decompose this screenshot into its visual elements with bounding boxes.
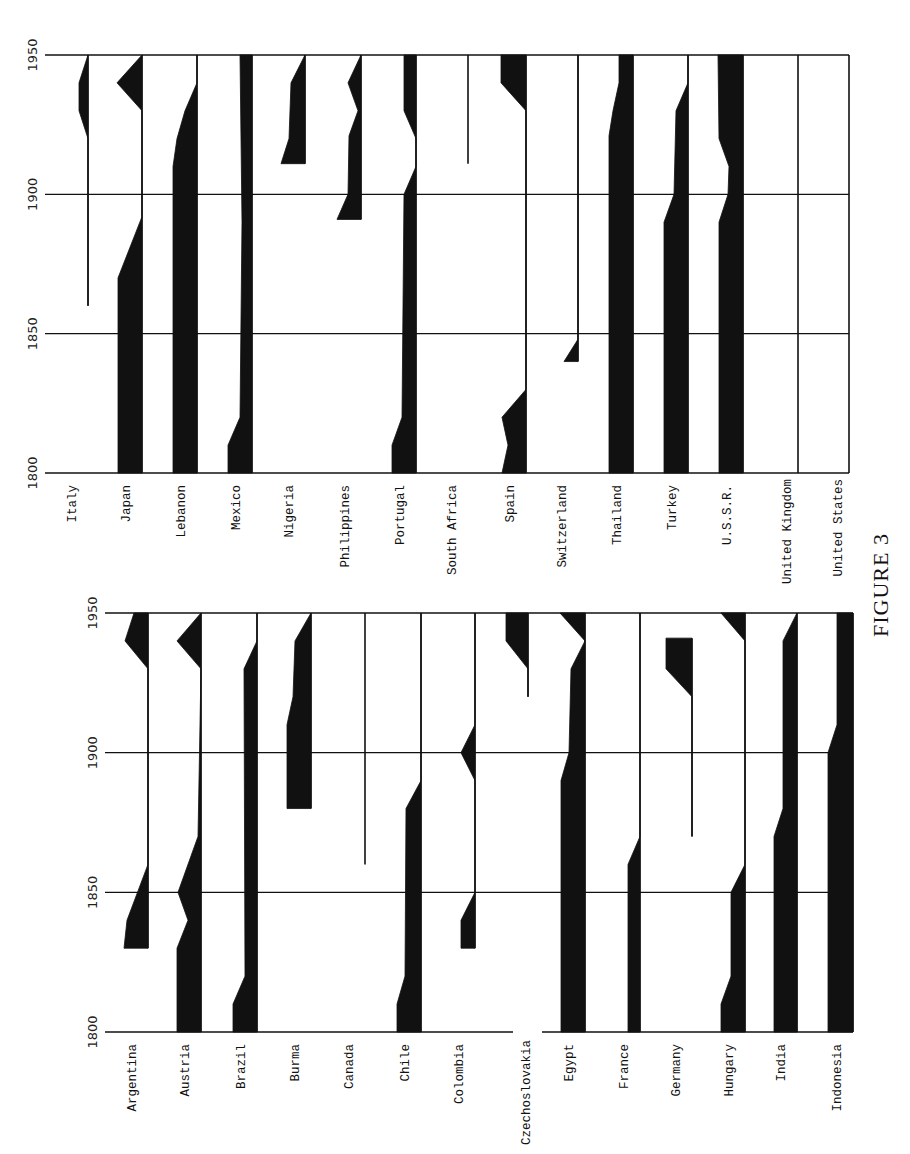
year-tick-label: 1800 — [25, 456, 40, 489]
series-burma: Burma — [287, 613, 311, 1082]
series-area — [392, 55, 416, 473]
country-label: Austria — [179, 1044, 193, 1097]
chart-panel-bottom: 1800185019001950ArgentinaAustriaBrazilBu… — [85, 596, 853, 1145]
series-area — [287, 613, 311, 809]
series-india: India — [774, 613, 797, 1082]
series-brazil: Brazil — [233, 613, 257, 1089]
country-label: Spain — [504, 485, 518, 523]
series-area — [564, 55, 578, 362]
series-south-africa: South Africa — [446, 55, 468, 575]
series-mexico: Mexico — [228, 55, 252, 530]
country-label: Hungary — [723, 1044, 737, 1097]
country-label: Philippines — [339, 485, 353, 568]
series-chile: Chile — [397, 613, 421, 1082]
country-label: Egypt — [563, 1044, 577, 1082]
country-label: Turkey — [666, 485, 680, 531]
series-portugal: Portugal — [392, 55, 416, 545]
country-label: Germany — [670, 1044, 684, 1097]
country-label: United States — [832, 479, 846, 577]
series-u-s-s-r-: U.S.S.R. — [718, 55, 743, 545]
series-germany: Germany — [666, 638, 692, 1096]
country-label: Switzerland — [556, 485, 570, 568]
year-tick-label: 1900 — [85, 736, 100, 769]
year-tick-label: 1900 — [25, 178, 40, 211]
year-tick-label: 1950 — [25, 38, 40, 71]
series-philippines: Philippines — [337, 55, 361, 568]
country-label: Japan — [120, 485, 134, 523]
country-label: Indonesia — [831, 1044, 845, 1112]
series-turkey: Turkey — [664, 55, 688, 530]
series-area — [228, 55, 252, 473]
country-label: Nigeria — [283, 485, 297, 538]
country-label: Mexico — [230, 485, 244, 530]
series-lebanon: Lebanon — [173, 55, 197, 538]
series-area — [79, 55, 88, 306]
series-austria: Austria — [177, 613, 201, 1097]
series-area — [461, 613, 475, 948]
series-nigeria: Nigeria — [281, 55, 305, 538]
series-colombia: Colombia — [453, 613, 475, 1104]
country-label: Czechoslovakia — [520, 1040, 534, 1146]
series-area — [173, 55, 197, 473]
series-area — [774, 613, 797, 1032]
series-area — [397, 613, 421, 1032]
series-area — [664, 55, 688, 473]
chart-panel-top: 1800185019001950ItalyJapanLebanonMexicoN… — [25, 38, 849, 584]
year-tick-label: 1800 — [85, 1015, 100, 1048]
country-label: India — [775, 1044, 789, 1082]
series-area — [506, 613, 528, 697]
series-united-states: United States — [832, 55, 849, 577]
series-area — [177, 613, 201, 1032]
series-area — [233, 613, 257, 1032]
country-label: Burma — [289, 1044, 303, 1082]
figure-canvas: 1800185019001950ItalyJapanLebanonMexicoN… — [0, 0, 910, 1154]
country-label: United Kingdom — [781, 479, 795, 584]
country-label: Thailand — [611, 485, 625, 545]
country-label: Lebanon — [175, 485, 189, 538]
series-czechoslovakia: Czechoslovakia — [506, 613, 534, 1145]
country-label: Portugal — [394, 485, 408, 545]
series-thailand: Thailand — [609, 55, 633, 545]
series-area — [666, 638, 692, 836]
series-area — [501, 55, 526, 473]
year-tick-label: 1850 — [25, 317, 40, 350]
series-indonesia: Indonesia — [828, 613, 853, 1112]
country-label: U.S.S.R. — [721, 485, 735, 545]
series-canada: Canada — [343, 613, 365, 1089]
country-label: South Africa — [446, 485, 460, 576]
figure-label: FIGURE 3 — [868, 533, 893, 637]
series-hungary: Hungary — [721, 613, 745, 1097]
series-area — [281, 55, 305, 164]
series-japan: Japan — [117, 55, 142, 523]
country-label: Argentina — [126, 1044, 140, 1112]
series-argentina: Argentina — [124, 613, 148, 1112]
series-france: France — [618, 613, 640, 1089]
country-label: France — [618, 1044, 632, 1089]
series-area — [117, 55, 142, 473]
series-area — [560, 613, 585, 1032]
series-united-kingdom: United Kingdom — [781, 55, 798, 584]
country-label: Canada — [343, 1044, 357, 1090]
series-egypt: Egypt — [560, 613, 585, 1082]
year-tick-label: 1950 — [85, 596, 100, 629]
series-area — [721, 613, 745, 1032]
country-label: Colombia — [453, 1044, 467, 1105]
series-area — [628, 613, 640, 1032]
series-italy: Italy — [66, 55, 88, 523]
country-label: Brazil — [235, 1044, 249, 1089]
series-area — [718, 55, 743, 473]
series-area — [124, 613, 148, 948]
country-label: Chile — [399, 1044, 413, 1082]
series-spain: Spain — [501, 55, 526, 523]
series-area — [828, 613, 853, 1032]
series-area — [609, 55, 633, 473]
year-tick-label: 1850 — [85, 876, 100, 909]
country-label: Italy — [66, 485, 80, 523]
series-switzerland: Switzerland — [556, 55, 578, 568]
